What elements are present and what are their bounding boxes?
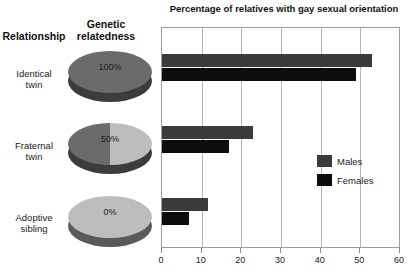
x-axis-tick [280, 248, 281, 253]
pie-slice-left [68, 123, 110, 165]
column-header-genetic-relatedness: Genetic relatedness [66, 18, 146, 42]
pie-top-face [68, 123, 152, 165]
bar-males-adoptive-sibling[interactable] [162, 198, 208, 211]
pie-top-face [68, 196, 152, 238]
bar-females-adoptive-sibling[interactable] [162, 212, 189, 225]
x-axis-tick-label: 40 [308, 255, 332, 265]
legend-swatch-males [317, 155, 332, 167]
bar-females-identical-twin[interactable] [162, 68, 356, 81]
column-header-line2: relatedness [66, 30, 146, 42]
pie-slice-right [110, 196, 152, 238]
x-axis-tick-label: 60 [387, 255, 411, 265]
row-label-line1: Identical [2, 68, 66, 79]
row-label-fraternal-twin: Fraternal twin [2, 140, 66, 162]
row-label-adoptive-sibling: Adoptive sibling [2, 212, 66, 234]
x-axis-tick-label: 0 [149, 255, 173, 265]
legend-item-males: Males [317, 155, 373, 167]
legend-swatch-females [317, 174, 332, 186]
pie-slice-right [110, 123, 152, 165]
row-label-line2: twin [2, 151, 66, 162]
pie-slice-left [68, 196, 110, 238]
bar-females-fraternal-twin[interactable] [162, 140, 229, 153]
column-header-line1: Genetic [66, 18, 146, 30]
pie-chart-identical-twin: 100% [66, 48, 154, 110]
row-label-line1: Fraternal [2, 140, 66, 151]
x-axis-tick-label: 50 [347, 255, 371, 265]
bar-males-fraternal-twin[interactable] [162, 126, 253, 139]
pie-chart-adoptive-sibling: 0% [66, 193, 154, 255]
pie-top-face [68, 51, 152, 93]
relationship-table: Relationship Genetic relatedness Identic… [0, 0, 155, 278]
bar-group [162, 126, 401, 154]
column-header-relationship: Relationship [2, 30, 66, 42]
x-axis-tick-label: 10 [189, 255, 213, 265]
x-axis-tick [240, 248, 241, 253]
row-label-identical-twin: Identical twin [2, 68, 66, 90]
x-axis-tick [320, 248, 321, 253]
x-axis-tick [399, 248, 400, 253]
row-label-line2: twin [2, 79, 66, 90]
bar-males-identical-twin[interactable] [162, 54, 372, 67]
pie-slice-left [68, 51, 110, 93]
x-axis-tick [201, 248, 202, 253]
x-axis-tick [161, 248, 162, 253]
x-axis-tick-label: 20 [228, 255, 252, 265]
x-axis-tick [359, 248, 360, 253]
pie-chart-fraternal-twin: 50% [66, 120, 154, 182]
legend-item-females: Females [317, 174, 373, 186]
chart-title: Percentage of relatives with gay sexual … [155, 3, 413, 14]
bar-chart-panel: Percentage of relatives with gay sexual … [155, 0, 415, 278]
bar-group [162, 54, 401, 82]
legend-label-males: Males [337, 156, 362, 167]
legend-label-females: Females [337, 175, 373, 186]
x-axis-tick-label: 30 [268, 255, 292, 265]
plot-area [161, 27, 400, 248]
pie-slice-right [110, 51, 152, 93]
bar-group [162, 198, 401, 226]
chart-legend: Males Females [317, 155, 373, 193]
row-label-line1: Adoptive [2, 212, 66, 223]
row-label-line2: sibling [2, 223, 66, 234]
